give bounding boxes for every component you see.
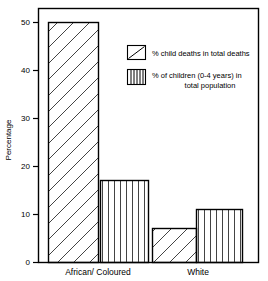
chart-container: 0 10 20 30 40 50 Percentage African/ Col…: [0, 0, 268, 281]
y-tick-label-0: 0: [26, 258, 31, 267]
x-category-label-white: White: [187, 267, 209, 277]
bar-white-child-deaths: [153, 229, 197, 263]
bar-chart-svg: 0 10 20 30 40 50 Percentage African/ Col…: [0, 0, 268, 281]
y-tick-label-40: 40: [21, 66, 30, 75]
bar-white-children-population: [197, 210, 243, 263]
y-tick-label-20: 20: [21, 162, 30, 171]
legend-label-child-deaths: % child deaths in total deaths: [152, 49, 250, 58]
y-tick-label-30: 30: [21, 114, 30, 123]
x-category-label-african-coloured: African/ Coloured: [65, 267, 131, 277]
y-tick-label-50: 50: [21, 18, 30, 27]
y-tick-label-10: 10: [21, 210, 30, 219]
y-axis-title: Percentage: [4, 119, 13, 160]
bar-african-coloured-children-population: [101, 181, 149, 263]
bar-african-coloured-child-deaths: [49, 23, 99, 263]
legend-label-children-population-line1: % of children (0-4 years) in: [152, 71, 242, 80]
legend-label-children-population-line2: total population: [185, 81, 236, 90]
